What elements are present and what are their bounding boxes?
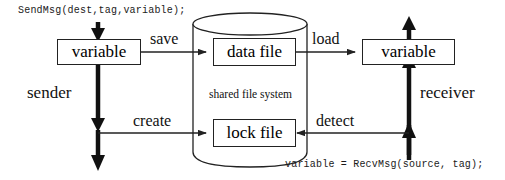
shared-file-system-label: shared file system — [209, 89, 292, 101]
detect-arrow-label: detect — [316, 113, 354, 129]
receiver-flow-spine — [402, 16, 416, 160]
save-arrow-label: save — [150, 31, 178, 47]
recvmsg-code-label: variable = RecvMsg(source, tag); — [285, 160, 483, 170]
sender-variable-label: variable — [72, 42, 127, 62]
sendmsg-code-label: SendMsg(dest,tag,variable); — [18, 6, 185, 16]
receiver-variable-label: variable — [381, 42, 436, 62]
data-file-box[interactable]: data file — [213, 38, 296, 66]
data-file-label: data file — [227, 42, 282, 62]
sender-actor-label: sender — [27, 84, 71, 101]
lock-file-label: lock file — [226, 123, 282, 143]
receiver-variable-box[interactable]: variable — [362, 39, 455, 65]
sender-variable-box[interactable]: variable — [57, 39, 141, 65]
load-arrow-label: load — [312, 31, 340, 47]
sender-flow-spine — [91, 63, 105, 171]
create-arrow-label: create — [133, 113, 171, 129]
lock-file-box[interactable]: lock file — [213, 119, 296, 147]
diagram-canvas: SendMsg(dest,tag,variable); variable = R… — [0, 0, 505, 180]
receiver-actor-label: receiver — [420, 84, 475, 101]
